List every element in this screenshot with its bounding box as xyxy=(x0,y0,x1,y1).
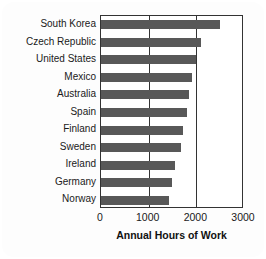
category-label: Sweden xyxy=(0,138,96,156)
category-label: South Korea xyxy=(0,15,96,33)
chart-screenshot: South KoreaCzech RepublicUnited StatesMe… xyxy=(0,0,266,259)
x-axis-title: Annual Hours of Work xyxy=(100,229,243,241)
bar-row xyxy=(101,191,242,209)
bar xyxy=(101,196,169,205)
bar-row xyxy=(101,174,242,192)
bar-row xyxy=(101,121,242,139)
bar xyxy=(101,73,192,82)
bar-row xyxy=(101,16,242,34)
bar xyxy=(101,161,175,170)
bar xyxy=(101,90,189,99)
bar xyxy=(101,143,181,152)
x-tick-label-0: 0 xyxy=(75,211,125,223)
category-label: Spain xyxy=(0,103,96,121)
plot-area xyxy=(100,15,243,208)
category-label: Norway xyxy=(0,190,96,208)
category-label: Ireland xyxy=(0,155,96,173)
bar-row xyxy=(101,34,242,52)
bar xyxy=(101,55,196,64)
bar xyxy=(101,126,183,135)
bar-row xyxy=(101,51,242,69)
category-label: Finland xyxy=(0,120,96,138)
bar xyxy=(101,20,220,29)
category-label: Mexico xyxy=(0,68,96,86)
bar xyxy=(101,178,172,187)
bars-group xyxy=(101,16,242,207)
category-label: Germany xyxy=(0,173,96,191)
bar-row xyxy=(101,69,242,87)
bar xyxy=(101,108,187,117)
bar-row xyxy=(101,86,242,104)
category-label: Australia xyxy=(0,85,96,103)
x-axis-tick-labels: 0100020003000 xyxy=(0,211,266,227)
bar-chart: South KoreaCzech RepublicUnited StatesMe… xyxy=(0,0,266,259)
x-tick-label-2000: 2000 xyxy=(170,211,220,223)
bar-row xyxy=(101,139,242,157)
bar-row xyxy=(101,104,242,122)
bar-row xyxy=(101,156,242,174)
x-tick-label-1000: 1000 xyxy=(123,211,173,223)
category-axis-labels: South KoreaCzech RepublicUnited StatesMe… xyxy=(0,15,96,208)
category-label: Czech Republic xyxy=(0,33,96,51)
category-label: United States xyxy=(0,50,96,68)
bar xyxy=(101,38,201,47)
x-tick-label-3000: 3000 xyxy=(218,211,266,223)
